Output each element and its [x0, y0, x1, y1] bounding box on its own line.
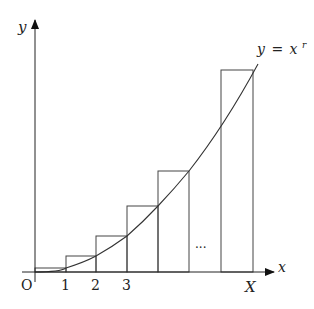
ellipsis: ···: [195, 241, 206, 255]
curve-label-eq: =: [271, 41, 283, 57]
tick-label-3: 3: [122, 277, 131, 293]
tick-label-1: 1: [61, 277, 70, 293]
upper-sum-rectangles: [35, 70, 253, 272]
rectangle-5: [158, 171, 189, 272]
rectangle-4: [127, 206, 158, 272]
curve-label-exp: r: [302, 40, 307, 50]
diagram-canvas: y x O 1 2 3 X ··· y = x r: [0, 0, 314, 309]
riemann-sum-diagram: y x O 1 2 3 X ··· y = x r: [0, 0, 314, 309]
power-curve: [35, 64, 258, 272]
curve-label-base: x: [290, 41, 298, 57]
y-axis-label: y: [17, 18, 27, 36]
x-axis-label: x: [278, 259, 286, 275]
curve-label-lhs: y: [256, 41, 266, 57]
rectangle-3: [96, 236, 127, 272]
origin-label: O: [21, 277, 32, 293]
tick-label-2: 2: [91, 277, 100, 293]
tick-label-X: X: [244, 278, 257, 296]
curve-label: y = x r: [256, 40, 307, 57]
